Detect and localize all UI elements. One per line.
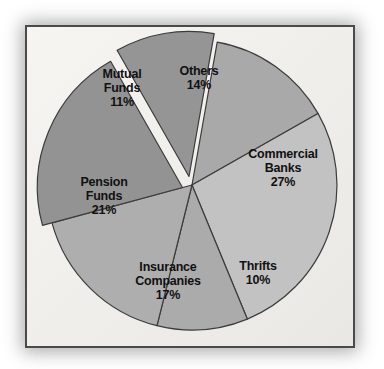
pie-label-commercial-banks: Commercial Banks 27%	[248, 147, 318, 189]
pie-label-pension-funds-name1: Pension	[80, 175, 127, 189]
pie-chart: Others 14% Commercial Banks 27% Thrifts …	[0, 0, 384, 369]
chart-stage: Others 14% Commercial Banks 27% Thrifts …	[0, 0, 384, 369]
pie-label-pension-funds: Pension Funds 21%	[80, 175, 127, 217]
pie-label-pension-funds-value: 21%	[80, 203, 127, 217]
pie-label-commercial-banks-name1: Commercial	[248, 147, 318, 161]
pie-label-insurance-companies: Insurance Companies 17%	[135, 260, 201, 302]
pie-label-mutual-funds-value: 11%	[102, 95, 141, 109]
pie-label-insurance-companies-value: 17%	[135, 288, 201, 302]
pie-label-pension-funds-name2: Funds	[80, 189, 127, 203]
pie-label-thrifts: Thrifts 10%	[239, 259, 277, 287]
pie-label-thrifts-name: Thrifts	[239, 259, 277, 273]
pie-label-thrifts-value: 10%	[239, 273, 277, 287]
pie-label-mutual-funds-name2: Funds	[102, 81, 141, 95]
pie-label-insurance-companies-name2: Companies	[135, 274, 201, 288]
pie-label-others-name: Others	[179, 64, 218, 78]
pie-label-commercial-banks-name2: Banks	[248, 161, 318, 175]
pie-chart-svg	[0, 0, 384, 369]
pie-label-others-value: 14%	[179, 78, 218, 92]
pie-label-insurance-companies-name1: Insurance	[139, 260, 196, 274]
pie-label-mutual-funds-name1: Mutual	[102, 67, 141, 81]
pie-label-mutual-funds: Mutual Funds 11%	[102, 67, 141, 109]
pie-label-others: Others 14%	[179, 64, 218, 92]
pie-label-commercial-banks-value: 27%	[248, 175, 318, 189]
